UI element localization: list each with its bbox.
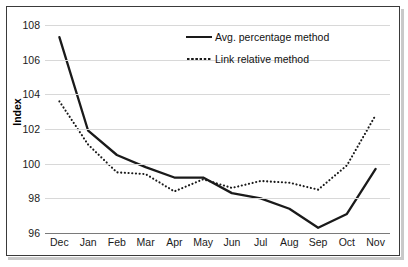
x-tick-label: May [193, 236, 213, 248]
x-tick-label: Oct [339, 236, 355, 248]
x-tick-label: Sep [309, 236, 328, 248]
x-tick-label: Apr [166, 236, 182, 248]
x-tick-label: Mar [137, 236, 155, 248]
x-tick-label: Jan [80, 236, 97, 248]
legend-item-link-relative-method: Link relative method [186, 48, 386, 70]
legend-item-avg-percentage-method: Avg. percentage method [186, 26, 386, 48]
x-tick-label: Nov [366, 236, 385, 248]
x-tick-label: Dec [50, 236, 69, 248]
gridline [45, 129, 390, 130]
x-tick-label: Jul [254, 236, 267, 248]
y-tick-label: 108 [10, 20, 40, 30]
legend-label: Avg. percentage method [215, 31, 329, 43]
x-tick-label: Jun [223, 236, 240, 248]
gridline [45, 94, 390, 95]
frame-shadow-bottom [8, 257, 402, 260]
x-axis-tick-labels: DecJanFebMarAprMayJunJulAugSepOctNov [45, 236, 390, 254]
legend-line-dotted-icon [186, 54, 212, 64]
y-axis-title: Index [11, 82, 23, 142]
chart-legend: Avg. percentage method Link relative met… [186, 26, 386, 70]
gridline [45, 198, 390, 199]
y-tick-label: 106 [10, 55, 40, 65]
y-tick-label: 98 [10, 193, 40, 203]
legend-label: Link relative method [215, 53, 309, 65]
legend-line-solid-icon [186, 32, 212, 42]
x-tick-label: Aug [280, 236, 299, 248]
chart-figure: 9698100102104106108 Index DecJanFebMarAp… [0, 0, 408, 267]
y-tick-label: 96 [10, 228, 40, 238]
y-tick-label: 100 [10, 159, 40, 169]
gridline [45, 164, 390, 165]
frame-shadow-right [401, 9, 404, 260]
x-axis-line [45, 233, 390, 234]
x-tick-label: Feb [108, 236, 126, 248]
